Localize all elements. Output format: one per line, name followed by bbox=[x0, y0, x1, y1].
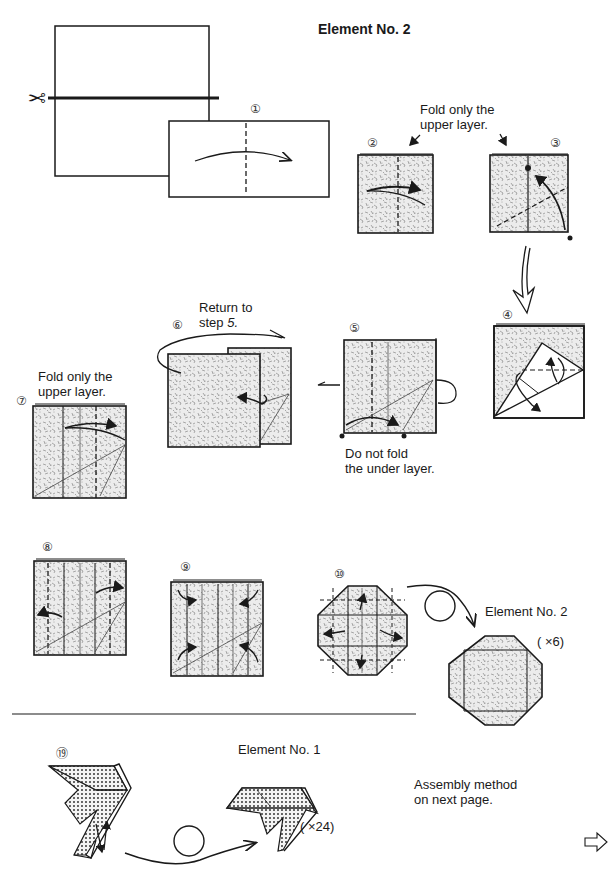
step-number-7: ⑦ bbox=[16, 394, 27, 408]
step-number-6: ⑥ bbox=[172, 318, 183, 332]
scissors-icon: ✂ bbox=[28, 86, 46, 112]
step-number-5: ⑤ bbox=[349, 321, 360, 335]
page-title: Element No. 2 bbox=[318, 22, 411, 37]
step-8-diagram bbox=[34, 559, 126, 655]
step-number-9: ⑨ bbox=[180, 560, 191, 574]
step-number-1: ① bbox=[250, 102, 261, 116]
step-number-3: ③ bbox=[550, 136, 561, 150]
turn-over-arrow-10 bbox=[407, 585, 474, 625]
annotation-return-to-step: Return to step 5. bbox=[199, 300, 252, 330]
step-19-diagram bbox=[49, 764, 131, 858]
step-number-19: ⑲ bbox=[56, 744, 68, 761]
return-step-number: 5. bbox=[227, 315, 238, 330]
assembly-note: Assembly method on next page. bbox=[414, 777, 517, 807]
step-9-diagram bbox=[171, 580, 263, 676]
step-4-diagram bbox=[494, 324, 585, 418]
step-number-2: ② bbox=[367, 136, 378, 150]
annotation-do-not-fold: Do not fold the under layer. bbox=[345, 446, 435, 476]
transition-arrow-3-to-4 bbox=[513, 246, 534, 313]
element-2-label: Element No. 2 bbox=[485, 604, 567, 619]
step-number-8: ⑧ bbox=[42, 540, 53, 554]
step-1-diagram bbox=[169, 121, 329, 197]
step-number-10: ⑩ bbox=[334, 567, 345, 581]
step-10-diagram bbox=[318, 586, 407, 675]
element-2-result bbox=[449, 636, 542, 725]
turn-over-arrow-19 bbox=[125, 826, 255, 864]
element-1-label: Element No. 1 bbox=[238, 742, 320, 757]
next-page-arrow-icon[interactable] bbox=[585, 833, 607, 851]
annotation-fold-upper-layer-step2: Fold only the upper layer. bbox=[420, 102, 494, 132]
element-1-count: ( ×24) bbox=[300, 819, 334, 834]
step-5-diagram bbox=[318, 338, 456, 439]
element-2-count: ( ×6) bbox=[537, 634, 564, 649]
annotation-fold-upper-layer-step7: Fold only the upper layer. bbox=[38, 369, 112, 399]
step-6-diagram bbox=[158, 330, 291, 447]
step-number-4: ④ bbox=[502, 308, 513, 322]
step-7-diagram bbox=[33, 404, 126, 498]
